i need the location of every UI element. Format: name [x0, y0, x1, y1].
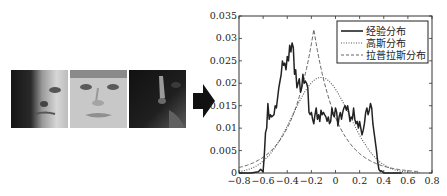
y-tick-label: 0.015: [210, 100, 237, 111]
distribution-chart: −0.8−0.6−0.4−0.200.20.40.60.800.0050.010…: [0, 0, 447, 196]
y-tick-label: 0.02: [216, 77, 237, 88]
legend-label-1: 高斯分布: [366, 37, 406, 49]
x-tick-label: 0.6: [400, 175, 415, 186]
x-tick-label: −0.6: [252, 175, 275, 186]
y-tick-label: 0.035: [210, 10, 237, 21]
x-tick-label: −0.2: [300, 175, 323, 186]
y-tick-label: 0.005: [210, 145, 237, 156]
x-tick-label: 0.2: [352, 175, 367, 186]
legend-label-0: 经验分布: [366, 25, 406, 37]
legend-label-2: 拉普拉斯分布: [366, 49, 426, 61]
y-tick-label: 0: [231, 167, 237, 178]
y-tick-label: 0.025: [210, 55, 237, 66]
x-tick-label: 0.4: [376, 175, 391, 186]
x-tick-label: 0: [332, 175, 338, 186]
y-tick-label: 0.01: [216, 122, 237, 133]
y-tick-label: 0.03: [216, 32, 237, 43]
x-tick-label: 0.8: [424, 175, 439, 186]
x-tick-label: −0.4: [276, 175, 299, 186]
